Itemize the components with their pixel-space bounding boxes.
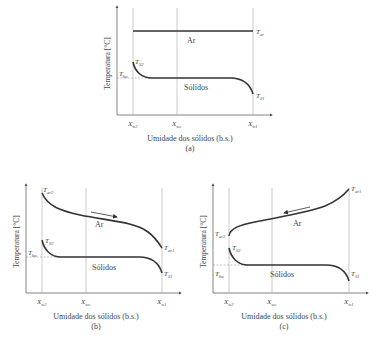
x-tick-xw1: Xw1: [247, 120, 258, 129]
t-s1-label: TS1: [256, 92, 264, 101]
panel-caption: (c): [280, 322, 289, 331]
x-tick-xwc: Xwc: [171, 120, 181, 129]
air-label: Ar: [95, 220, 104, 229]
t-s2-label: TS2: [45, 237, 54, 246]
x-axis-label: Umidade dos sólidos (b.s.): [53, 312, 139, 321]
panel-c: Ar Sólidos Tar2 Tar1 TS2 TS1 Tbu Tempera…: [199, 184, 368, 331]
x-tick-xwc: Xwc: [80, 298, 90, 307]
x-tick-xw2: Xw2: [36, 298, 47, 307]
y-axis-label: Temperatura [°C]: [12, 215, 21, 268]
x-tick-xw1: Xw1: [156, 298, 167, 307]
air-label: Ar: [187, 36, 196, 45]
air-label: Ar: [293, 219, 302, 228]
t-s2-label: TS2: [232, 244, 241, 253]
x-tick-xw1: Xw1: [343, 298, 354, 307]
t-ar1-label: Tar1: [164, 244, 174, 253]
t-ar-label: Tar: [256, 28, 264, 37]
solids-label: Sólidos: [92, 263, 116, 272]
flow-arrow: [91, 212, 117, 217]
solids-label: Sólidos: [270, 270, 294, 279]
panel-caption: (b): [91, 322, 101, 331]
t-s2-label: TS2: [135, 58, 144, 67]
x-axis-label: Umidade dos sólidos (b.s.): [241, 312, 327, 321]
t-bu-label: Tbu: [215, 270, 224, 279]
figure: Ar Sólidos Tar TS2 TS1 Tbu Temperatura […: [0, 0, 377, 342]
t-bu-label: Tbu: [119, 70, 128, 79]
t-ar2-label: Tar2: [215, 230, 226, 239]
panel-caption: (a): [186, 144, 195, 153]
panel-a: Ar Sólidos Tar TS2 TS1 Tbu Temperatura […: [103, 6, 272, 153]
t-bu-label: Tbu: [28, 249, 37, 258]
y-axis-label: Temperatura [°C]: [199, 215, 208, 268]
t-s1-label: TS1: [351, 270, 359, 279]
x-tick-xwc: Xwc: [266, 298, 276, 307]
x-tick-xw2: Xw2: [223, 298, 234, 307]
x-tick-xw2: Xw2: [127, 120, 138, 129]
t-ar2-label: Tar2: [43, 186, 54, 195]
panel-b: Ar Sólidos Tar2 Tar1 TS2 TS1 Tbu Tempera…: [12, 184, 181, 331]
air-curve: [229, 189, 349, 236]
y-axis-label: Temperatura [°C]: [103, 37, 112, 90]
x-axis-label: Umidade dos sólidos (b.s.): [147, 134, 233, 143]
t-ar1-label: Tar1: [351, 185, 361, 194]
t-s1-label: TS1: [164, 270, 172, 279]
solids-label: Sólidos: [184, 83, 208, 92]
